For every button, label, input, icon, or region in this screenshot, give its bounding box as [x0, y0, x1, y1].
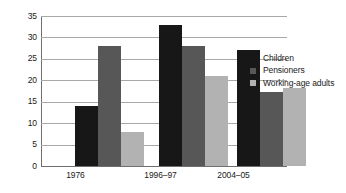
y-tick-label-35: 35 — [7, 12, 37, 21]
bar-chart: 35 30 25 20 15 10 5 0 1976 1996–97 2004 — [0, 0, 346, 193]
bar-2004-05-pensioners — [260, 92, 283, 166]
legend: Children Pensioners Working-age adults — [250, 52, 346, 90]
gridline-0-baseline — [41, 166, 287, 167]
bar-1976-children — [75, 106, 98, 166]
legend-item-children: Children — [250, 52, 346, 65]
working-age-adults-swatch-icon — [250, 80, 256, 86]
bar-1996-97-working-age-adults — [205, 76, 228, 166]
bar-2004-05-working-age-adults — [283, 88, 306, 166]
gridline-35 — [41, 16, 287, 17]
y-tick-label-0: 0 — [7, 162, 37, 171]
pensioners-swatch-icon — [250, 68, 256, 74]
y-tick-label-15: 15 — [7, 97, 37, 106]
x-tick-label-1976: 1976 — [38, 171, 113, 180]
legend-item-pensioners: Pensioners — [250, 65, 346, 78]
y-tick-label-30: 30 — [7, 33, 37, 42]
legend-item-working-age-adults: Working-age adults — [250, 77, 346, 90]
bar-1976-pensioners — [98, 46, 121, 166]
plot-area — [41, 16, 287, 166]
y-tick-label-20: 20 — [7, 76, 37, 85]
legend-label-children: Children — [263, 54, 294, 63]
x-tick-label-2004-05: 2004–05 — [196, 171, 271, 180]
legend-label-pensioners: Pensioners — [263, 66, 305, 75]
y-tick-label-5: 5 — [7, 140, 37, 149]
bar-1996-97-pensioners — [182, 46, 205, 166]
y-tick-label-10: 10 — [7, 119, 37, 128]
x-tick-label-1996-97: 1996–97 — [123, 171, 198, 180]
legend-label-working-age-adults: Working-age adults — [263, 79, 334, 88]
y-axis-labels: 35 30 25 20 15 10 5 0 — [2, 0, 37, 193]
bar-1996-97-children — [159, 25, 182, 166]
children-swatch-icon — [250, 55, 256, 61]
bar-1976-working-age-adults — [121, 132, 144, 166]
y-tick-label-25: 25 — [7, 54, 37, 63]
